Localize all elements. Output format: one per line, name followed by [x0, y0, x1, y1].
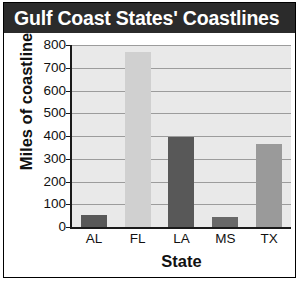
y-tick-label: 500 — [22, 106, 66, 120]
x-tick-label-fl: FL — [116, 231, 160, 246]
y-tick-label: 800 — [22, 38, 66, 52]
chart-title-bar: Gulf Coast States' Coastlines — [4, 3, 295, 33]
chart-title: Gulf Coast States' Coastlines — [14, 7, 279, 30]
y-tick-label: 0 — [22, 220, 66, 234]
y-tick-label: 100 — [22, 197, 66, 211]
x-tick-label-al: AL — [72, 231, 116, 246]
x-axis-ticks: ALFLLAMSTX — [72, 231, 291, 246]
y-tick-label: 400 — [22, 129, 66, 143]
bar-fl — [125, 52, 151, 227]
bar-slot — [203, 45, 247, 227]
plot-area — [70, 45, 291, 229]
y-tick-label: 200 — [22, 175, 66, 189]
y-tick-label: 300 — [22, 152, 66, 166]
bar-slot — [247, 45, 291, 227]
y-tick-label: 600 — [22, 84, 66, 98]
bar-al — [81, 215, 107, 227]
chart-figure: Gulf Coast States' Coastlines Miles of c… — [0, 0, 299, 282]
x-tick-label-tx: TX — [247, 231, 291, 246]
y-tick-label: 700 — [22, 61, 66, 75]
bar-tx — [256, 144, 282, 227]
bar-la — [168, 137, 194, 227]
bar-slot — [72, 45, 116, 227]
x-axis-title: State — [72, 252, 291, 271]
x-tick-label-la: LA — [160, 231, 204, 246]
bar-slot — [160, 45, 204, 227]
bar-series — [72, 45, 291, 227]
bar-ms — [212, 217, 238, 227]
y-axis-ticks: 8007006005004003002001000 — [18, 45, 66, 227]
x-tick-label-ms: MS — [203, 231, 247, 246]
bar-slot — [116, 45, 160, 227]
